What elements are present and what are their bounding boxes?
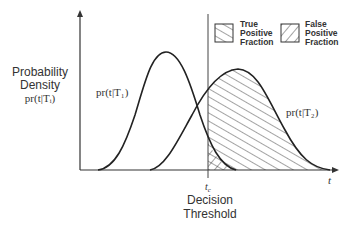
y-axis-sublabel: pr(t|Tᵢ) — [25, 92, 56, 105]
y-axis-label-line2: Density — [20, 78, 60, 92]
legend-false-positive-line3: Fraction — [305, 37, 339, 47]
diagram-canvas: Probability Density pr(t|Tᵢ) pr(t|T₁) pr… — [0, 0, 356, 232]
threshold-label-line2: Threshold — [183, 207, 236, 221]
y-axis-arrow-icon — [77, 10, 83, 17]
y-axis-label-line1: Probability — [12, 65, 68, 79]
legend-true-positive-swatch — [215, 24, 233, 42]
legend-true-positive-line3: Fraction — [240, 37, 274, 47]
legend-false-positive-swatch — [281, 24, 299, 42]
x-axis-arrow-icon — [332, 167, 339, 173]
curve-t1-label: pr(t|T₁) — [96, 86, 129, 99]
true-positive-area — [208, 69, 328, 170]
x-axis-label: t — [328, 174, 332, 186]
threshold-label-line1: Decision — [187, 193, 233, 207]
curve-t2-label: pr(t|T₂) — [286, 106, 319, 119]
